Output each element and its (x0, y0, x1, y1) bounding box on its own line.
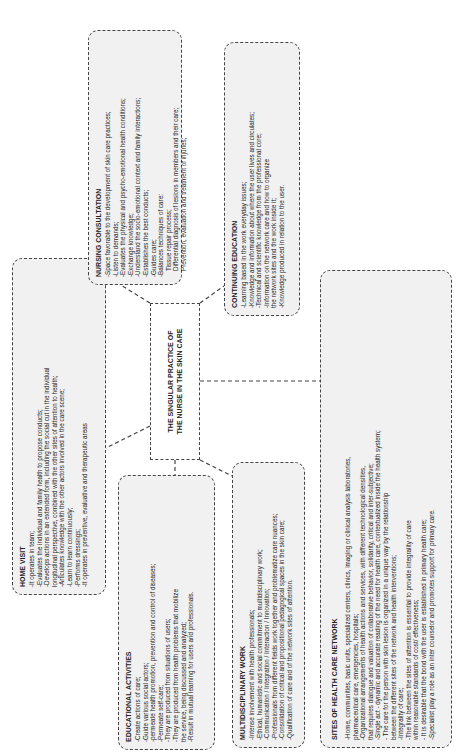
multidisciplinary-work-title: MULTIDISCIPLINARY WORK (238, 470, 247, 740)
nursing-consultation-line: -Understand the socio-emotional context … (134, 38, 142, 277)
continuing-education-line: -Learning based in the work everyday iss… (240, 50, 248, 308)
central-concept-box: THE SINGULAR PRACTICE OF THE NURSE IN TH… (150, 303, 200, 460)
link-continuing-education (200, 286, 224, 303)
central-title-line-1: THE SINGULAR PRACTICE OF (166, 329, 175, 435)
home-visit-line: -It operates in team; (28, 266, 36, 587)
home-visit-line: -Articulates knowledge with the other ac… (58, 266, 66, 587)
home-visit-title: HOME VISIT (18, 266, 27, 587)
nursing-consultation-line: Differential diagnosis of lesions in mem… (172, 38, 180, 277)
sites-network-line: that requires dialogue and valuation of … (367, 278, 375, 740)
home-visit-box: HOME VISIT -It operates in team; -Evalua… (12, 258, 106, 595)
home-visit-line: -Performs dressings; (74, 266, 82, 587)
multidisciplinary-work-line: -Communication / Integration / Interacti… (263, 470, 271, 740)
educational-activities-line: -Create actions of care; (134, 483, 142, 742)
educational-activities-line: -They are produced from health problems … (172, 483, 180, 742)
nursing-consultation-title: NURSING CONSULTATION (94, 38, 103, 277)
continuing-education-line: -Knowledge and information about where t… (248, 50, 256, 308)
sites-network-line: -The link between the sites of attention… (405, 278, 413, 740)
home-visit-line: -It operates in preventive, evaluative a… (81, 266, 89, 587)
educational-activities-line: the service, being discussed and analyze… (180, 483, 188, 742)
educational-activities-line: -They are produced from situations of us… (164, 483, 172, 742)
central-title-line-2: THE NURSE IN THE SKIN CARE (175, 329, 184, 435)
sites-network-title: SITES OF HEALTH CARE NETWORK (330, 278, 339, 740)
home-visit-line: -Evaluates the individual and family hea… (36, 266, 44, 587)
continuing-education-line: -Information on the network care and how… (263, 50, 271, 308)
educational-activities-line: -Guide various social actors; (142, 483, 150, 742)
home-visit-line: -Develops actions in an extended form, i… (43, 266, 51, 587)
nursing-consultation-line: -Guides care; (150, 38, 158, 277)
link-multidisciplinary-work (200, 460, 232, 476)
nursing-consultation-line: Tissue repair process; (165, 38, 173, 277)
sites-network-line: -Single act - dynamic and accurate readi… (374, 278, 382, 740)
nursing-consultation-line: -Evaluates the physical and psycho-emoti… (119, 38, 127, 277)
home-visit-line: longitudinal perspective, combined with … (51, 266, 59, 587)
sites-network-line: -Home, communities, basic units, special… (344, 278, 352, 740)
continuing-education-box: CONTINUING EDUCATION -Learning based in … (224, 42, 300, 316)
concept-diagram: THE SINGULAR PRACTICE OF THE NURSE IN TH… (0, 0, 456, 756)
sites-network-line: -Integrality of care; (397, 278, 405, 740)
nursing-consultation-line: Prevention, evaluation and treatment of … (180, 38, 188, 277)
multidisciplinary-work-line: -Ethical, humanistic and social commitme… (256, 470, 264, 740)
sites-network-line: between the different sites of the netwo… (390, 278, 398, 740)
nursing-consultation-line: -Listen to demands; (112, 38, 120, 277)
sites-network-line: - The care for the person with skin lesi… (382, 278, 390, 740)
multidisciplinary-work-line: -Qualification of care and of the networ… (286, 470, 294, 740)
home-visit-line: -Learn to learn continuously; (66, 266, 74, 587)
nursing-consultation-line: -Establishes the best conducts; (142, 38, 150, 277)
educational-activities-line: -Result in mutual learning for users and… (187, 483, 195, 742)
sites-network-line: -Organizational arrangements of health a… (359, 278, 367, 740)
sites-network-line: - It is desirable that the bond with the… (420, 278, 428, 740)
continuing-education-title: CONTINUING EDUCATION (230, 50, 239, 308)
multidisciplinary-work-line: -Professionals from different fields wor… (271, 470, 279, 740)
continuing-education-line: -Knowledge produced in relation to the u… (278, 50, 286, 308)
nursing-consultation-line: -Balances techniques of care: (157, 38, 165, 277)
continuing-education-line: the network sites and the work inside it… (270, 50, 278, 308)
multidisciplinary-work-line: -Intense involvement with health profess… (248, 470, 256, 740)
sites-network-line: -Specialist play a role as an inter coun… (428, 278, 436, 740)
educational-activities-line: -permeate health promotion, prevention a… (149, 483, 157, 742)
continuing-education-line: -Technical and scientific knowledge from… (255, 50, 263, 308)
educational-activities-box: EDUCATIONAL ACTIVITIES -Create actions o… (118, 475, 215, 750)
educational-activities-title: EDUCATIONAL ACTIVITIES (124, 483, 133, 742)
multidisciplinary-work-box: MULTIDISCIPLINARY WORK -Intense involvem… (232, 462, 305, 748)
multidisciplinary-work-line: -Consolidation of critical and propositi… (278, 470, 286, 740)
nursing-consultation-line: -Space favorable to the development of s… (104, 38, 112, 277)
sites-network-line: pharmaceutical care, emergencies, hospit… (352, 278, 360, 740)
nursing-consultation-line: -Exchange knowledge; (127, 38, 135, 277)
sites-health-care-network-box: SITES OF HEALTH CARE NETWORK -Home, comm… (320, 270, 452, 748)
educational-activities-line: -Permeate self-care; (157, 483, 165, 742)
sites-network-line: within reasonable standards of cost/ eff… (412, 278, 420, 740)
nursing-consultation-box: NURSING CONSULTATION -Space favorable to… (88, 30, 182, 285)
